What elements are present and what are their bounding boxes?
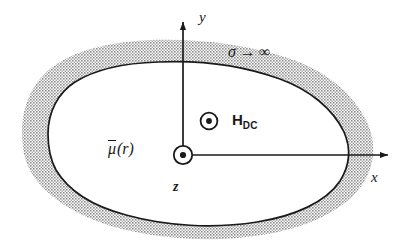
hdc-out-of-page-marker — [201, 113, 218, 130]
permeability-annotation: μ(r) — [108, 140, 134, 158]
infinity-symbol: ∞ — [259, 43, 271, 60]
y-axis-label: y — [199, 10, 206, 25]
physics-cross-section-diagram — [0, 0, 402, 251]
z-axis-label: z — [173, 180, 178, 194]
x-axis-label: x — [371, 170, 378, 185]
mu-bar-symbol: μ — [108, 140, 116, 158]
bias-field-annotation: HDC — [232, 112, 258, 131]
right-arrow-icon: → — [236, 43, 259, 60]
mu-argument: (r) — [116, 140, 134, 157]
hdc-symbol: H — [232, 111, 243, 128]
origin-out-of-page-marker — [174, 146, 192, 164]
hdc-subscript: DC — [243, 120, 258, 131]
conductivity-annotation: σ→∞ — [228, 44, 271, 60]
